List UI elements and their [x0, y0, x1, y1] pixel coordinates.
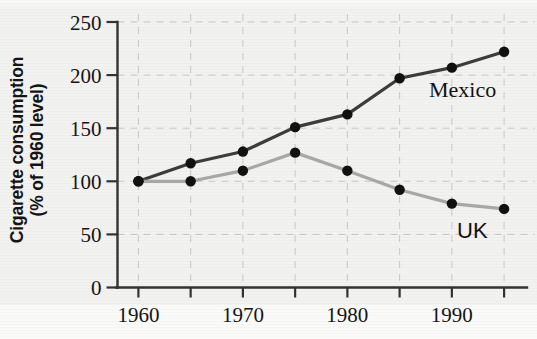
line-chart-plot: 0501001502002501960197019801990 MexicoUK: [0, 0, 537, 339]
series-label-uk: UK: [457, 218, 488, 243]
figure-container: Cigarette consumption (% of 1960 level) …: [0, 0, 537, 339]
y-tick-label: 100: [70, 170, 102, 194]
x-tick-label: 1960: [117, 303, 159, 327]
data-point-marker: [290, 122, 300, 132]
data-point-marker: [185, 176, 195, 186]
series-label-mexico: Mexico: [429, 77, 496, 102]
data-point-marker: [133, 176, 143, 186]
series-labels-group: MexicoUK: [429, 77, 496, 243]
data-point-marker: [447, 198, 457, 208]
tick-marks-group: [107, 22, 505, 298]
y-tick-label: 0: [91, 276, 102, 300]
data-point-marker: [499, 204, 509, 214]
tick-labels-group: 0501001502002501960197019801990: [70, 11, 473, 327]
data-point-marker: [290, 147, 300, 157]
y-axis-title-line-2: (% of 1960 level): [28, 57, 48, 243]
data-point-marker: [238, 146, 248, 156]
y-axis-title: Cigarette consumption (% of 1960 level): [0, 0, 56, 300]
x-tick-label: 1970: [222, 303, 264, 327]
y-tick-label: 250: [70, 11, 102, 35]
x-tick-label: 1990: [431, 303, 473, 327]
y-tick-label: 150: [70, 117, 102, 141]
axis-lines-group: [117, 22, 528, 288]
y-tick-label: 200: [70, 64, 102, 88]
data-point-marker: [499, 47, 509, 57]
clipped-caption-text: [70, 0, 490, 2]
data-point-marker: [342, 109, 352, 119]
x-tick-label: 1980: [326, 303, 368, 327]
data-point-marker: [185, 158, 195, 168]
data-point-marker: [342, 165, 352, 175]
y-axis-title-line-1: Cigarette consumption: [8, 57, 28, 243]
data-point-marker: [394, 185, 404, 195]
y-tick-label: 50: [81, 223, 102, 247]
data-point-marker: [447, 62, 457, 72]
data-point-marker: [238, 165, 248, 175]
data-point-marker: [394, 73, 404, 83]
series-markers-group: [133, 47, 509, 215]
gridlines-group: [118, 14, 536, 288]
